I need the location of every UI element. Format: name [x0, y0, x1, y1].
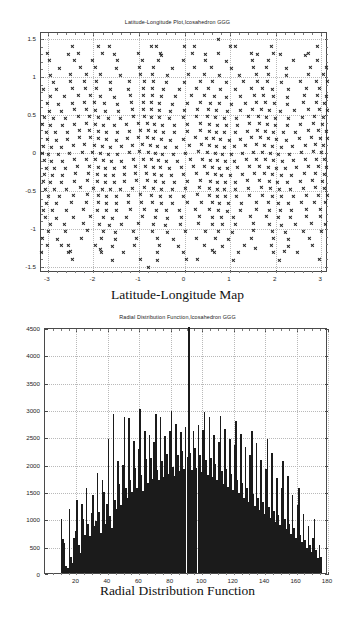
histogram-xtick-minor: [297, 573, 298, 575]
scatter-point: [155, 251, 158, 254]
scatter-point: [192, 44, 195, 47]
scatter-point: [112, 174, 115, 177]
scatter-ytick-minor-right: [326, 85, 328, 86]
scatter-point: [304, 53, 307, 56]
histogram-xtick-label: 160: [290, 577, 300, 584]
scatter-point: [291, 145, 294, 148]
scatter-point: [169, 174, 172, 177]
scatter-point: [278, 258, 281, 261]
scatter-point: [326, 109, 329, 112]
histogram-ytick-label: 2500: [2, 434, 40, 441]
scatter-point: [323, 187, 326, 190]
scatter-point: [260, 108, 263, 111]
scatter-xtick-label: -3: [44, 275, 50, 282]
scatter-point: [199, 143, 202, 146]
scatter-point: [178, 209, 181, 212]
scatter-point: [86, 193, 89, 196]
scatter-point: [285, 138, 288, 141]
scatter-point: [128, 130, 131, 133]
scatter-point: [109, 81, 112, 84]
scatter-point: [154, 215, 157, 218]
scatter-point: [141, 58, 144, 61]
scatter-point: [317, 165, 320, 168]
scatter-point: [151, 201, 154, 204]
histogram-xtick-minor-top: [171, 329, 172, 331]
scatter-point: [112, 53, 115, 56]
scatter-point: [95, 87, 98, 90]
scatter-point: [266, 73, 269, 76]
scatter-xtick-minor: [239, 271, 240, 273]
histogram-xtick-minor: [281, 573, 282, 575]
latitude-longitude-figure: Latitude-Longitude Plot,Icosahedron GGG …: [0, 0, 355, 310]
scatter-ygridline: [41, 191, 328, 192]
scatter-ytick-minor: [41, 62, 43, 63]
scatter-point: [235, 116, 238, 119]
scatter-point: [141, 157, 144, 160]
scatter-xtick-minor-top: [230, 33, 231, 35]
scatter-ytick-minor: [41, 100, 43, 101]
scatter-ytick-minor: [41, 199, 43, 200]
scatter-point: [112, 167, 115, 170]
scatter-point: [52, 81, 55, 84]
histogram-ytick: [45, 384, 48, 385]
scatter-point: [63, 230, 66, 233]
scatter-point: [174, 95, 177, 98]
scatter-ytick-minor: [41, 115, 43, 116]
scatter-point: [234, 45, 237, 48]
histogram-xtick-label: 120: [227, 577, 237, 584]
scatter-point: [210, 80, 213, 83]
scatter-point: [268, 208, 271, 211]
scatter-point: [224, 124, 227, 127]
histogram-xtick-minor: [210, 573, 211, 575]
histogram-xtick-minor-top: [210, 329, 211, 331]
scatter-point: [259, 136, 262, 139]
scatter-point: [102, 102, 105, 105]
histogram-ytick-label: 1000: [2, 516, 40, 523]
histogram-xtick-minor-top: [249, 329, 250, 331]
scatter-point: [128, 94, 131, 97]
scatter-point: [269, 244, 272, 247]
histogram-xtick-minor: [171, 573, 172, 575]
scatter-ytick-minor: [41, 107, 43, 108]
scatter-point: [291, 195, 294, 198]
scatter-point: [180, 216, 183, 219]
scatter-point: [255, 79, 258, 82]
scatter-point: [104, 138, 107, 141]
scatter-point: [245, 129, 248, 132]
histogram-xtick-minor: [249, 573, 250, 575]
scatter-point: [291, 59, 294, 62]
scatter-point: [208, 194, 211, 197]
scatter-point: [267, 201, 270, 204]
scatter-point: [73, 158, 76, 161]
histogram-xtick-label: 20: [72, 577, 79, 584]
scatter-point: [198, 79, 201, 82]
scatter-point: [270, 144, 273, 147]
scatter-point: [287, 237, 290, 240]
histogram-xtick-minor-top: [69, 329, 70, 331]
scatter-point: [80, 236, 83, 239]
scatter-point: [94, 80, 97, 83]
histogram-xtick-minor-top: [61, 329, 62, 331]
scatter-point: [196, 258, 199, 261]
scatter-ytick-minor: [41, 214, 43, 215]
scatter-ytick-minor-right: [326, 191, 328, 192]
histogram-xtick-minor-top: [116, 329, 117, 331]
scatter-ytick-label: 1: [6, 73, 36, 80]
histogram-xtick-minor-top: [92, 329, 93, 331]
scatter-point: [284, 230, 287, 233]
histogram-ygridline: [45, 356, 328, 357]
scatter-point: [74, 172, 77, 175]
scatter-point: [225, 59, 228, 62]
histogram-xtick-minor-top: [242, 329, 243, 331]
scatter-point: [301, 101, 304, 104]
scatter-point: [301, 186, 304, 189]
scatter-plot-title: Latitude-Longitude Plot,Icosahedron GGG: [0, 19, 355, 25]
scatter-point: [122, 173, 125, 176]
scatter-point: [88, 94, 91, 97]
scatter-point: [59, 181, 62, 184]
scatter-point: [262, 94, 265, 97]
scatter-point: [257, 122, 260, 125]
scatter-point: [280, 195, 283, 198]
scatter-xtick-minor-top: [93, 33, 94, 35]
scatter-point: [266, 59, 269, 62]
